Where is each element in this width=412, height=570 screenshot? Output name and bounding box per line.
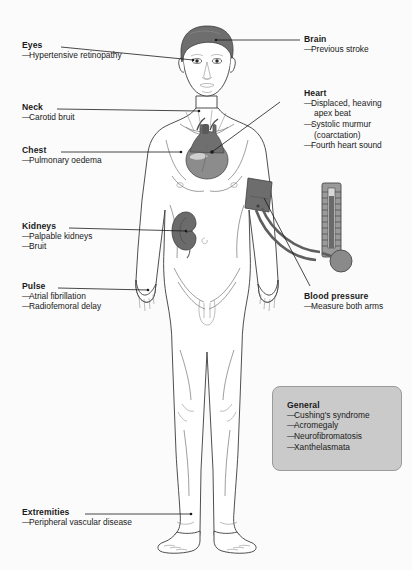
label-chest: Chest —Pulmonary oedema <box>22 145 102 166</box>
label-pulse-title: Pulse <box>22 281 101 291</box>
label-neck-item-0: —Carotid bruit <box>22 113 75 123</box>
label-heart: Heart —Displaced, heaving apex beat —Sys… <box>304 88 382 151</box>
label-heart-item-0: —Displaced, heaving <box>304 99 382 109</box>
general-findings-panel: General —Cushing's syndrome —Acromegaly … <box>272 386 402 471</box>
label-general-item-2: —Neurofibromatosis <box>287 432 401 442</box>
label-heart-item-0-cont: apex beat <box>304 109 382 119</box>
label-extremities-title: Extremities <box>22 507 132 517</box>
label-pulse: Pulse —Atrial fibrillation —Radiofemoral… <box>22 281 101 312</box>
label-heart-item-2: —Fourth heart sound <box>304 141 382 151</box>
label-blood-pressure: Blood pressure —Measure both arms <box>304 291 383 312</box>
blood-pressure-cuff <box>245 178 272 212</box>
label-general: General —Cushing's syndrome —Acromegaly … <box>273 387 401 453</box>
label-kidneys-item-0: —Palpable kidneys <box>22 232 92 242</box>
label-extremities: Extremities —Peripheral vascular disease <box>22 507 132 528</box>
label-neck: Neck —Carotid bruit <box>22 102 75 123</box>
label-chest-item-0: —Pulmonary oedema <box>22 156 102 166</box>
label-kidneys-title: Kidneys <box>22 221 92 231</box>
label-blood-pressure-item-0: —Measure both arms <box>304 302 383 312</box>
label-heart-title: Heart <box>304 88 382 98</box>
label-pulse-item-1: —Radiofemoral delay <box>22 302 101 312</box>
label-pulse-item-0: —Atrial fibrillation <box>22 292 101 302</box>
label-brain-title: Brain <box>304 34 369 44</box>
label-general-item-0: —Cushing's syndrome <box>287 411 401 421</box>
label-general-title: General <box>287 400 401 410</box>
hypertension-examination-diagram: .sk { fill:#ffffff; stroke:#3b3b3b; stro… <box>0 0 412 570</box>
label-general-item-1: —Acromegaly <box>287 421 401 431</box>
label-eyes-title: Eyes <box>22 40 122 50</box>
label-chest-title: Chest <box>22 145 102 155</box>
label-general-item-3: —Xanthelasmata <box>287 443 401 453</box>
label-eyes: Eyes —Hypertensive retinopathy <box>22 40 122 61</box>
label-brain-item-0: —Previous stroke <box>304 45 369 55</box>
label-neck-title: Neck <box>22 102 75 112</box>
head <box>179 26 236 96</box>
label-kidneys-item-1: —Bruit <box>22 242 92 252</box>
label-blood-pressure-title: Blood pressure <box>304 291 383 301</box>
feet <box>158 531 256 553</box>
label-eyes-item-0: —Hypertensive retinopathy <box>22 51 122 61</box>
leader-neck <box>57 109 199 111</box>
label-heart-item-1-cont: (coarctation) <box>304 131 382 141</box>
label-heart-item-1: —Systolic murmur <box>304 120 382 130</box>
label-extremities-item-0: —Peripheral vascular disease <box>22 518 132 528</box>
label-kidneys: Kidneys —Palpable kidneys —Bruit <box>22 221 92 252</box>
label-brain: Brain —Previous stroke <box>304 34 369 55</box>
